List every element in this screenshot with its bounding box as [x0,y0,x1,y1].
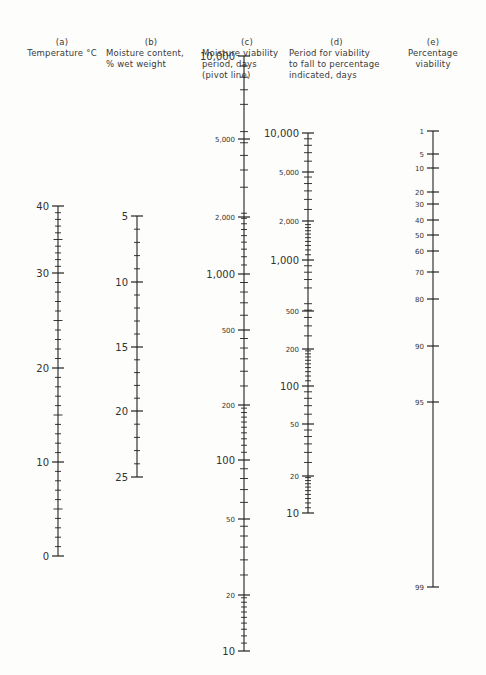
tick-label: 95 [415,399,424,407]
tick-label: 1,000 [206,269,235,280]
tick-label: 10 [36,457,49,468]
scale-a: 403020100 [36,201,64,562]
tick-label: 20 [290,473,299,481]
tick-label: 500 [222,327,235,335]
tick-label: 5 [122,211,128,222]
tick-label: 5,000 [279,169,299,177]
nomogram: 40302010051015202510,0005,0002,0001,0005… [0,0,486,675]
tick-label: 500 [286,308,299,316]
tick-label: 70 [415,269,424,277]
tick-label: 5,000 [215,136,235,144]
tick-label: 30 [36,268,49,279]
tick-label: 40 [36,201,49,212]
tick-label: 90 [415,343,424,351]
tick-label: 25 [115,472,128,483]
tick-label: 100 [216,455,235,466]
tick-label: 2,000 [279,218,299,226]
scale-d: 10,0005,0002,0001,000500200100502010 [264,128,314,519]
tick-label: 2,000 [215,214,235,222]
tick-label: 20 [36,363,49,374]
tick-label: 200 [286,346,299,354]
tick-label: 10,000 [264,128,299,139]
scale-c: 10,0005,0002,0001,000500200100502010 [200,51,250,657]
tick-label: 99 [415,584,424,592]
tick-label: 20 [226,592,235,600]
tick-label: 100 [280,381,299,392]
tick-label: 10 [222,646,235,657]
tick-label: 50 [290,421,299,429]
tick-label: 0 [43,551,49,562]
tick-label: 50 [415,232,424,240]
tick-label: 40 [415,217,424,225]
tick-label: 50 [226,516,235,524]
scale-b: 510152025 [115,211,143,483]
tick-label: 30 [415,201,424,209]
tick-label: 5 [420,151,424,159]
scale-e: 151020304050607080909599 [415,128,439,592]
tick-label: 60 [415,248,424,256]
tick-label: 20 [415,189,424,197]
tick-label: 1,000 [270,255,299,266]
tick-label: 200 [222,402,235,410]
tick-label: 15 [115,342,128,353]
tick-label: 1 [420,128,424,136]
tick-label: 10 [286,508,299,519]
tick-label: 10 [115,277,128,288]
tick-label: 10,000 [200,51,235,62]
tick-label: 80 [415,296,424,304]
tick-label: 20 [115,406,128,417]
tick-label: 10 [415,165,424,173]
